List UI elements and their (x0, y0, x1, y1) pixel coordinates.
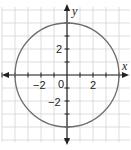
coordinate-graph: y x 0 −2 2 2 −2 (0, 0, 131, 150)
x-axis (2, 72, 129, 78)
y-tick-label-neg2: −2 (48, 96, 61, 108)
x-tick-label-neg2: −2 (33, 79, 46, 91)
y-axis-label: y (71, 4, 78, 18)
y-tick-label-pos2: 2 (56, 43, 62, 55)
x-tick-label-pos2: 2 (90, 79, 96, 91)
y-axis-bottom-arrow-icon (64, 138, 70, 145)
x-axis-left-arrow-icon (2, 72, 9, 78)
origin-label: 0 (58, 78, 64, 90)
x-axis-label: x (121, 59, 128, 73)
